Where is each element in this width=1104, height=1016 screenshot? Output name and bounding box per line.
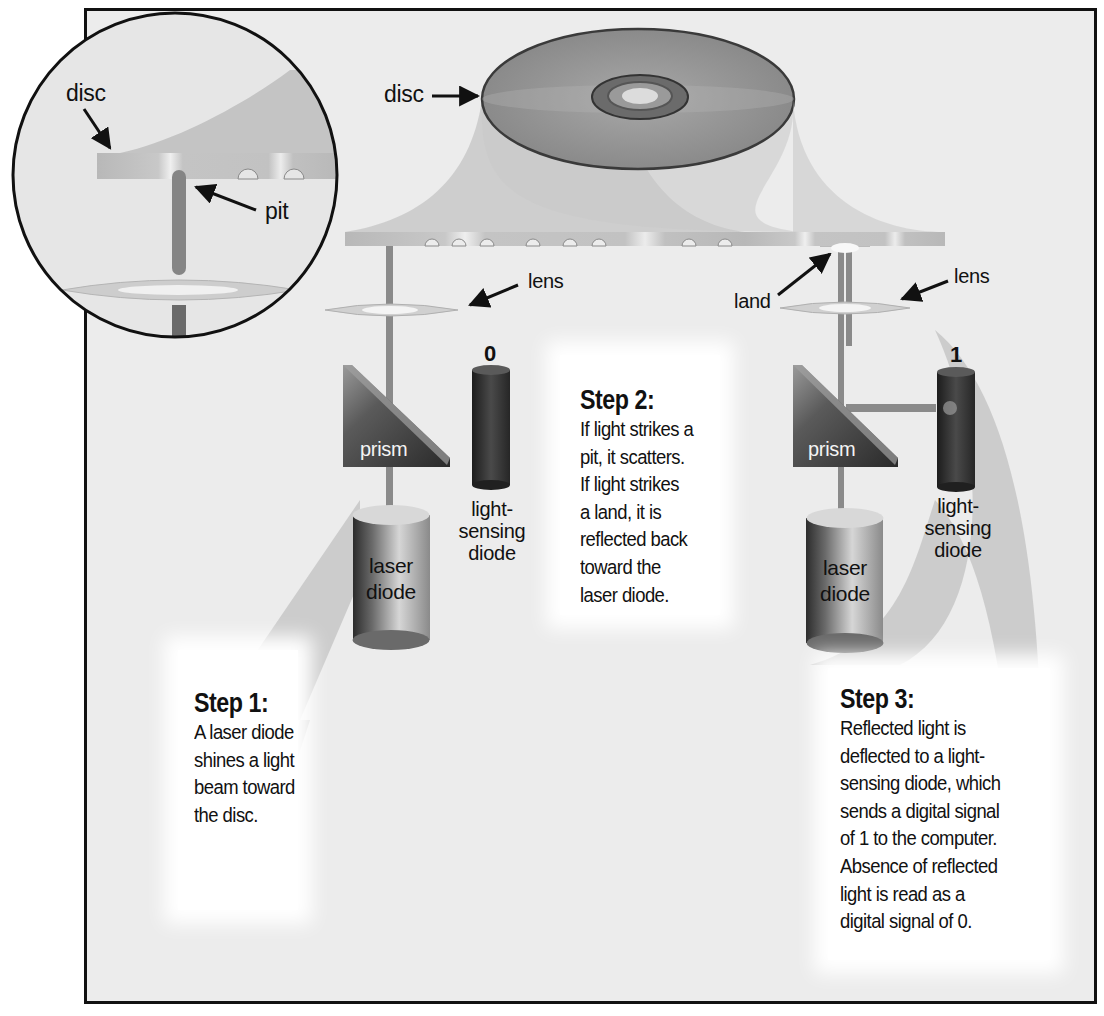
step-2-callout: Step 2: If light strikes a pit, it scatt… (560, 355, 720, 615)
step-2-line: reflected back (580, 525, 706, 553)
left-laser-label-line: diode (351, 579, 431, 605)
land-label: land (734, 290, 771, 312)
magnifier-disc-label: disc (66, 82, 106, 104)
right-laser-label: laser diode (805, 555, 885, 607)
left-sensor-value: 0 (484, 341, 496, 367)
top-disc-label: disc (384, 83, 424, 105)
pit-label: pit (265, 200, 288, 222)
right-prism-label: prism (808, 438, 855, 460)
step-2-line: If light strikes (580, 470, 706, 498)
left-laser-label-line: laser (351, 553, 431, 579)
step-2-line: toward the (580, 553, 706, 581)
step-3-line: Reflected light is (840, 714, 1029, 742)
step-3-line: light is read as a (840, 880, 1029, 908)
step-3-line: of 1 to the computer. (840, 824, 1029, 852)
step-1-line: beam toward (194, 773, 288, 801)
right-laser-label-line: laser (805, 555, 885, 581)
step-2-title: Step 2: (580, 385, 700, 415)
step-3-line: digital signal of 0. (840, 907, 1029, 935)
step-2-line: pit, it scatters. (580, 443, 706, 471)
step-3-line: sends a digital signal (840, 797, 1029, 825)
step-2-line: If light strikes a (580, 415, 706, 443)
step-1-title: Step 1: (194, 688, 283, 718)
right-sensor-value: 1 (950, 342, 962, 368)
step-3-line: Absence of reflected (840, 852, 1029, 880)
step-1-line: the disc. (194, 801, 288, 829)
left-sensor-label-line: sensing (452, 520, 532, 542)
right-sensor-label-line: sensing (918, 517, 998, 539)
magnifier-inset (13, 13, 342, 365)
step-1-callout: Step 1: A laser diode shines a light bea… (178, 650, 298, 910)
step-3-line: deflected to a light- (840, 742, 1029, 770)
arrow-land (778, 254, 830, 295)
step-2-line: laser diode. (580, 581, 706, 609)
step-1-line: shines a light (194, 746, 288, 774)
right-lens-label: lens (954, 265, 990, 287)
left-sensor-label-line: light- (452, 498, 532, 520)
left-prism-label: prism (360, 438, 407, 460)
left-laser-label: laser diode (351, 553, 431, 605)
arrow-right-lens (902, 281, 948, 299)
step-3-title: Step 3: (840, 684, 1021, 714)
step-2-line: a land, it is (580, 498, 706, 526)
left-sensor-label-line: diode (452, 542, 532, 564)
arrow-left-lens (470, 285, 518, 305)
left-sensor-label: light- sensing diode (452, 498, 532, 564)
step-3-line: sensing diode, which (840, 769, 1029, 797)
right-sensor-label-line: diode (918, 539, 998, 561)
step-1-line: A laser diode (194, 718, 288, 746)
disc-illustration (482, 29, 794, 169)
right-sensor-label-line: light- (918, 495, 998, 517)
step-3-callout: Step 3: Reflected light is deflected to … (828, 668, 1050, 960)
right-sensor-label: light- sensing diode (918, 495, 998, 561)
left-lens-label: lens (528, 270, 564, 292)
right-laser-label-line: diode (805, 581, 885, 607)
